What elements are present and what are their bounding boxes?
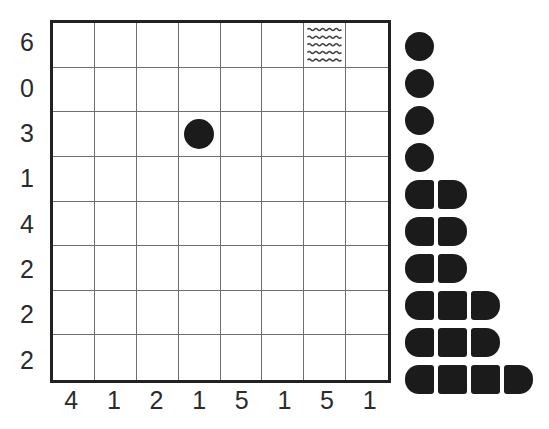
legend-row [405, 180, 467, 209]
grid-cell[interactable] [95, 157, 137, 202]
grid-cell[interactable] [137, 335, 179, 380]
grid-cell[interactable] [262, 157, 304, 202]
y-axis-tick: 4 [8, 202, 46, 247]
y-axis-tick: 2 [8, 247, 46, 292]
grid-cell[interactable] [53, 157, 95, 202]
grid-cell[interactable] [137, 157, 179, 202]
grid-cell[interactable] [221, 335, 263, 380]
wave-hatch-icon [306, 25, 343, 65]
grid-cell[interactable] [304, 157, 346, 202]
legend-row [405, 69, 434, 98]
grid-cell[interactable] [304, 112, 346, 157]
x-axis-tick: 4 [50, 388, 93, 426]
legend-row [405, 291, 500, 320]
grid-cell[interactable] [53, 112, 95, 157]
x-axis-tick: 1 [263, 388, 306, 426]
grid-cell[interactable] [179, 246, 221, 291]
grid-cell[interactable] [221, 68, 263, 113]
grid-cell[interactable] [95, 23, 137, 68]
grid-cell[interactable] [262, 68, 304, 113]
grid-cell[interactable] [179, 157, 221, 202]
grid-cell[interactable] [95, 68, 137, 113]
grid-cell[interactable] [137, 291, 179, 336]
grid-cell[interactable] [137, 202, 179, 247]
legend-segment [405, 69, 434, 98]
legend-segment [405, 254, 434, 283]
grid-cell[interactable] [221, 246, 263, 291]
grid-cell[interactable] [304, 23, 346, 68]
grid-cell[interactable] [95, 246, 137, 291]
grid-cell[interactable] [137, 246, 179, 291]
legend-segment [438, 254, 467, 283]
legend-segment [438, 328, 467, 357]
grid-cell[interactable] [346, 23, 388, 68]
grid-cell[interactable] [304, 335, 346, 380]
grid-cell[interactable] [304, 68, 346, 113]
grid-cell[interactable] [221, 157, 263, 202]
x-axis-tick: 1 [93, 388, 136, 426]
grid-cell[interactable] [262, 291, 304, 336]
x-axis-labels: 41215151 [50, 388, 391, 426]
legend-segment [471, 365, 500, 394]
legend-segment [471, 291, 500, 320]
x-axis-tick: 5 [306, 388, 349, 426]
y-axis-tick: 2 [8, 338, 46, 383]
y-axis-labels: 60314222 [8, 20, 46, 383]
x-axis-tick: 1 [178, 388, 221, 426]
grid-cell[interactable] [346, 335, 388, 380]
legend-row [405, 328, 500, 357]
legend-row [405, 106, 434, 135]
grid-cell[interactable] [346, 157, 388, 202]
legend-segment [504, 365, 533, 394]
grid-cell[interactable] [221, 291, 263, 336]
grid-cell[interactable] [179, 291, 221, 336]
grid-cell[interactable] [346, 291, 388, 336]
legend-segment [438, 217, 467, 246]
grid-cell[interactable] [95, 335, 137, 380]
grid-cell[interactable] [221, 112, 263, 157]
legend-segment [405, 106, 434, 135]
grid-cell[interactable] [137, 68, 179, 113]
grid-cell[interactable] [53, 68, 95, 113]
grid-cell[interactable] [262, 23, 304, 68]
legend-row [405, 254, 467, 283]
legend-blocks [405, 20, 545, 383]
grid-cell[interactable] [262, 335, 304, 380]
grid-cell[interactable] [137, 23, 179, 68]
legend-segment [471, 328, 500, 357]
grid-cell[interactable] [262, 246, 304, 291]
grid-cell[interactable] [304, 202, 346, 247]
grid-cell[interactable] [95, 291, 137, 336]
grid-cell[interactable] [137, 112, 179, 157]
grid-cell[interactable] [95, 202, 137, 247]
grid-cell[interactable] [53, 202, 95, 247]
grid-cell[interactable] [179, 23, 221, 68]
grid-cell[interactable] [262, 202, 304, 247]
grid-cell[interactable] [221, 23, 263, 68]
legend-segment [405, 365, 434, 394]
grid-cell[interactable] [53, 335, 95, 380]
grid-cell[interactable] [346, 112, 388, 157]
legend-segment [405, 217, 434, 246]
grid-cell[interactable] [179, 202, 221, 247]
grid-cell[interactable] [221, 202, 263, 247]
grid-cell[interactable] [179, 112, 221, 157]
grid-cell[interactable] [346, 246, 388, 291]
grid-cell[interactable] [95, 112, 137, 157]
grid-cell[interactable] [53, 291, 95, 336]
legend-segment [405, 143, 434, 172]
grid-cell[interactable] [304, 246, 346, 291]
grid-cell[interactable] [179, 68, 221, 113]
grid-cell[interactable] [346, 68, 388, 113]
grid-cell[interactable] [262, 112, 304, 157]
figure-canvas: 60314222 41215151 [0, 0, 549, 429]
grid-cell[interactable] [53, 246, 95, 291]
puzzle-grid[interactable] [50, 20, 391, 383]
grid-cell[interactable] [346, 202, 388, 247]
legend-segment [405, 32, 434, 61]
y-axis-tick: 2 [8, 292, 46, 337]
grid-cell[interactable] [53, 23, 95, 68]
filled-circle-icon [184, 119, 214, 149]
grid-cell[interactable] [304, 291, 346, 336]
grid-cell[interactable] [179, 335, 221, 380]
